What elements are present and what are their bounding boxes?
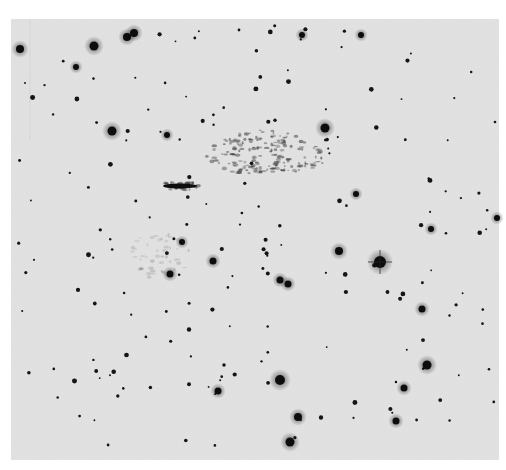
star-field-photograph <box>0 0 506 470</box>
